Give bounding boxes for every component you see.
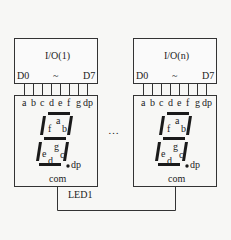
digit-label-d: d bbox=[48, 156, 53, 166]
bus-label: LED1 bbox=[68, 190, 92, 200]
io-port-1-box: I/O(1) D0 ~ D7 bbox=[14, 38, 98, 84]
seg-pin-c: c bbox=[159, 98, 163, 108]
digit-label-f: f bbox=[48, 124, 51, 134]
digit-label-c: c bbox=[179, 150, 183, 160]
pin-range-sep: ~ bbox=[172, 71, 177, 81]
seg-pin-d: d bbox=[168, 98, 173, 108]
led-digit-n-box: a b c d e f g dp a f b g e c d dp com bbox=[133, 95, 217, 187]
digit-label-dp: dp bbox=[190, 160, 200, 170]
common-label: com bbox=[168, 174, 185, 184]
digit-label-dp: dp bbox=[71, 160, 81, 170]
digit-label-b: b bbox=[62, 124, 67, 134]
seg-pin-b: b bbox=[31, 98, 36, 108]
seg-pin-g: g bbox=[76, 98, 81, 108]
common-label: com bbox=[49, 174, 66, 184]
pin-range-sep: ~ bbox=[53, 71, 58, 81]
digit-label-c: c bbox=[60, 150, 64, 160]
seg-pin-b: b bbox=[150, 98, 155, 108]
seg-pin-f: f bbox=[67, 98, 70, 108]
pin-end-label: D7 bbox=[202, 71, 214, 81]
digit-label-b: b bbox=[181, 124, 186, 134]
digit-label-g: g bbox=[173, 142, 178, 152]
digit-label-a: a bbox=[56, 116, 60, 126]
io-port-n-label: I/O(n) bbox=[164, 51, 189, 61]
pin-end-label: D7 bbox=[83, 71, 95, 81]
seg-pin-e: e bbox=[58, 98, 62, 108]
seg-pin-c: c bbox=[40, 98, 44, 108]
pin-start-label: D0 bbox=[136, 71, 148, 81]
led-digit-1-box: a b c d e f g dp a f b g e c d dp com bbox=[14, 95, 98, 187]
digit-label-e: e bbox=[42, 149, 46, 159]
digit-label-d: d bbox=[167, 156, 172, 166]
right-pin-lines bbox=[144, 83, 207, 95]
seg-pin-g: g bbox=[195, 98, 200, 108]
seg-pin-f: f bbox=[186, 98, 189, 108]
pin-start-label: D0 bbox=[17, 71, 29, 81]
io-port-1-label: I/O(1) bbox=[45, 51, 70, 61]
seg-pin-e: e bbox=[177, 98, 181, 108]
left-pin-lines bbox=[25, 83, 88, 95]
seg-pin-a: a bbox=[141, 98, 145, 108]
seg-pin-a: a bbox=[22, 98, 26, 108]
digit-label-g: g bbox=[54, 142, 59, 152]
seg-pin-dp: dp bbox=[83, 98, 93, 108]
io-port-n-box: I/O(n) D0 ~ D7 bbox=[133, 38, 217, 84]
digit-label-e: e bbox=[161, 149, 165, 159]
digit-label-a: a bbox=[175, 116, 179, 126]
seg-pin-d: d bbox=[49, 98, 54, 108]
seg-pin-dp: dp bbox=[202, 98, 212, 108]
digit-label-f: f bbox=[167, 124, 170, 134]
ellipsis: … bbox=[108, 125, 119, 135]
